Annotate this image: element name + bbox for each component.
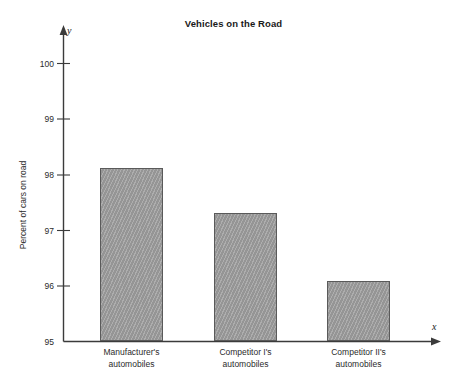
y-tick-label: 98 xyxy=(28,170,54,180)
y-tick-label: 95 xyxy=(28,337,54,347)
bar-competitor-2 xyxy=(327,281,390,341)
x-category-line: Manufacturer's xyxy=(82,347,182,359)
x-category-line: automobiles xyxy=(82,359,182,371)
bar-competitor-1 xyxy=(214,213,277,342)
x-category-label-competitor-1: Competitor I's automobiles xyxy=(196,347,296,370)
x-category-label-manufacturer: Manufacturer's automobiles xyxy=(82,347,182,370)
x-axis-arrow xyxy=(431,338,441,346)
y-axis-letter: y xyxy=(67,25,71,36)
y-axis-tick-labels: 100 99 98 97 96 95 xyxy=(28,0,54,387)
y-tick-label: 99 xyxy=(28,114,54,124)
y-tick-label: 97 xyxy=(28,226,54,236)
x-category-line: automobiles xyxy=(309,359,409,371)
bar-manufacturer xyxy=(100,168,163,341)
x-category-line: Competitor II's xyxy=(309,347,409,359)
bar-chart-figure: Vehicles on the Road 100 99 98 97 96 95 … xyxy=(0,0,467,387)
y-tick-label: 100 xyxy=(28,59,54,69)
x-category-line: automobiles xyxy=(196,359,296,371)
x-category-line: Competitor I's xyxy=(196,347,296,359)
y-tick-label: 96 xyxy=(28,281,54,291)
x-category-label-competitor-2: Competitor II's automobiles xyxy=(309,347,409,370)
x-axis-letter: x xyxy=(432,321,436,332)
y-axis-title: Percent of cars on road xyxy=(18,120,28,290)
